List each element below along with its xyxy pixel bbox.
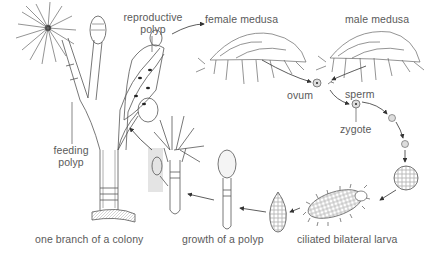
male-medusa (316, 32, 424, 82)
polyp-growth-stages (218, 150, 286, 232)
female-medusa (196, 33, 306, 84)
label-reproductive-polyp: reproductive polyp (121, 11, 185, 35)
arrow-polyp-to-branch (188, 194, 214, 200)
label-colony-branch: one branch of a colony (35, 233, 143, 245)
label-reproductive-line2: polyp (121, 23, 185, 35)
label-zygote: zygote (340, 123, 372, 135)
label-polyp-growth: growth of a polyp (182, 233, 264, 245)
arrow-larva-to-spindle (290, 208, 300, 212)
label-reproductive-line1: reproductive (121, 11, 185, 23)
blastula (394, 166, 418, 190)
ciliated-larva (303, 184, 370, 226)
arrow-spindle-to-polyp (240, 208, 266, 212)
arrow-zygote-to-cleavage (362, 102, 387, 114)
arrow-blastula-to-larva (380, 190, 396, 200)
colony-branch (16, 2, 164, 222)
sperm-cell (328, 81, 334, 84)
label-ovum: ovum (287, 89, 313, 101)
life-cycle-diagram: reproductive polyp female medusa male me… (0, 0, 429, 258)
arrow-to-colony (130, 128, 152, 150)
cleavage-cell (402, 141, 409, 148)
label-feeding-line2: polyp (50, 156, 92, 168)
label-feeding-polyp: feeding polyp (50, 144, 92, 168)
arrow-female-to-ovum (262, 60, 311, 82)
label-female-medusa: female medusa (205, 13, 278, 25)
arrow-cleavage-2 (396, 122, 403, 138)
cleavage-cell (389, 115, 396, 122)
label-feeding-line1: feeding (50, 144, 92, 156)
label-larva: ciliated bilateral larva (297, 233, 397, 245)
highlight-box (148, 148, 163, 192)
label-male-medusa: male medusa (345, 13, 409, 25)
label-sperm: sperm (345, 88, 375, 100)
